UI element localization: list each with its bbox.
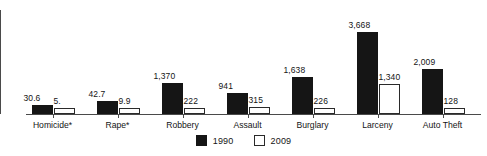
x-axis-tick xyxy=(118,114,119,118)
bar-pair: 941315 xyxy=(223,10,285,114)
bar-1990 xyxy=(97,101,118,114)
bar-group: 30.65. xyxy=(28,10,90,114)
bar-1990 xyxy=(422,69,443,114)
legend-label-1990: 1990 xyxy=(213,136,234,146)
bar-value-label-2009: 222 xyxy=(184,97,198,106)
bar-value-label-1990: 1,370 xyxy=(154,72,176,81)
x-axis-tick xyxy=(183,114,184,118)
bar-group: 1,638226 xyxy=(288,10,350,114)
bar-1990 xyxy=(162,83,183,114)
bar-value-label-2009: 315 xyxy=(249,96,263,105)
bar-pair: 1,638226 xyxy=(288,10,350,114)
bar-group: 941315 xyxy=(223,10,285,114)
bar-value-label-1990: 30.6 xyxy=(24,94,41,103)
x-axis-tick xyxy=(443,114,444,118)
y-axis-line xyxy=(0,10,1,114)
bar-value-label-2009: 1,340 xyxy=(379,73,401,82)
legend-item-1990: 1990 xyxy=(196,135,234,146)
bar-chart: 30.65.42.79.91,3702229413151,6382263,668… xyxy=(0,0,487,156)
bar-2009 xyxy=(314,108,335,114)
legend-swatch-filled-icon xyxy=(196,135,207,146)
bar-value-label-1990: 3,668 xyxy=(349,21,371,30)
bar-pair: 30.65. xyxy=(28,10,90,114)
legend-swatch-open-icon xyxy=(254,135,265,146)
bar-value-label-2009: 9.9 xyxy=(119,97,131,106)
bar-1990 xyxy=(357,32,378,114)
bar-value-label-2009: 5. xyxy=(54,97,61,106)
bar-group: 3,6681,340 xyxy=(353,10,415,114)
bar-pair: 2,009128 xyxy=(418,10,480,114)
bar-value-label-2009: 128 xyxy=(444,97,458,106)
bar-pair: 3,6681,340 xyxy=(353,10,415,114)
bar-1990 xyxy=(227,93,248,114)
bar-2009 xyxy=(119,108,140,114)
x-axis-line xyxy=(26,114,481,115)
bar-pair: 42.79.9 xyxy=(93,10,155,114)
bar-2009 xyxy=(379,84,400,114)
bar-2009 xyxy=(444,108,465,114)
bar-1990 xyxy=(32,105,53,114)
x-axis-label: Auto Theft xyxy=(398,120,487,131)
bar-2009 xyxy=(249,107,270,114)
x-axis-tick xyxy=(313,114,314,118)
bar-2009 xyxy=(54,108,75,114)
x-axis-tick xyxy=(53,114,54,118)
bar-1990 xyxy=(292,77,313,114)
bar-2009 xyxy=(184,108,205,114)
bar-value-label-1990: 941 xyxy=(219,82,233,91)
chart-legend: 1990 2009 xyxy=(0,135,487,146)
bar-value-label-2009: 226 xyxy=(314,97,328,106)
bar-pair: 1,370222 xyxy=(158,10,220,114)
legend-label-2009: 2009 xyxy=(271,136,292,146)
x-axis-tick xyxy=(378,114,379,118)
bar-group: 2,009128 xyxy=(418,10,480,114)
bar-group: 42.79.9 xyxy=(93,10,155,114)
bar-value-label-1990: 2,009 xyxy=(414,58,436,67)
plot-area: 30.65.42.79.91,3702229413151,6382263,668… xyxy=(26,10,481,114)
legend-item-2009: 2009 xyxy=(254,135,292,146)
bar-group: 1,370222 xyxy=(158,10,220,114)
x-axis-tick xyxy=(248,114,249,118)
bar-value-label-1990: 42.7 xyxy=(89,90,106,99)
bar-value-label-1990: 1,638 xyxy=(284,66,306,75)
